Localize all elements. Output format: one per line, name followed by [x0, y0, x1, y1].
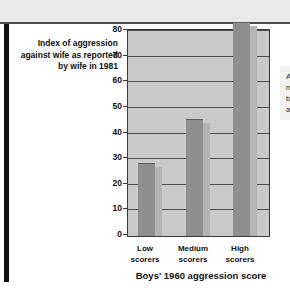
bar-2 [186, 119, 203, 236]
x-category-label-1: Lowscorers [118, 243, 172, 265]
annotation-line-4: abusers [286, 104, 290, 115]
annotation-line-3: become wife [286, 93, 290, 104]
x-category-2-line-1: Medium [166, 243, 220, 254]
y-axis-label-line-3: by wife in 1981 [14, 61, 118, 73]
x-category-3-line-1: High [213, 243, 267, 254]
plot-area: Aggressive boys more often become wife a… [127, 29, 270, 237]
y-tick-label-50: 50 [100, 102, 122, 111]
bar-shadow-1 [155, 167, 162, 236]
y-axis-label-line-1: Index of aggression [14, 38, 118, 50]
x-category-3-line-2: scorers [213, 254, 267, 265]
bar-shadow-2 [203, 123, 210, 236]
y-tick-label-40: 40 [100, 128, 122, 137]
y-tick-label-10: 10 [100, 204, 122, 213]
x-category-label-2: Mediumscorers [166, 243, 220, 265]
y-tick-label-70: 70 [100, 51, 122, 60]
page-top-band [0, 0, 290, 22]
y-tick-label-0: 0 [100, 230, 122, 239]
y-tick-label-20: 20 [100, 179, 122, 188]
y-tick-label-30: 30 [100, 153, 122, 162]
annotation-callout: Aggressive boys more often become wife a… [280, 66, 290, 120]
y-tick-label-60: 60 [100, 76, 122, 85]
bar-3 [233, 22, 250, 236]
bar-1 [138, 163, 155, 236]
annotation-line-1: Aggressive boys [286, 71, 290, 82]
x-category-1-line-2: scorers [118, 254, 172, 265]
bar-shadow-3 [250, 26, 257, 236]
x-axis-title: Boys' 1960 aggression score [127, 270, 275, 281]
x-category-label-3: Highscorers [213, 243, 267, 265]
figure-page: Index of aggression against wife as repo… [0, 0, 290, 294]
x-category-1-line-1: Low [118, 243, 172, 254]
x-category-2-line-2: scorers [166, 254, 220, 265]
annotation-line-2: more often [286, 82, 290, 93]
y-tick-label-80: 80 [100, 25, 122, 34]
